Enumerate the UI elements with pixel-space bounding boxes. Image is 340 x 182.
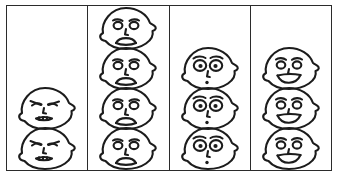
- mouth-frown: [116, 78, 136, 83]
- mouth-upper-lip: [277, 153, 300, 155]
- sad-face-glyph: [96, 124, 160, 173]
- left-eye: [114, 141, 123, 148]
- left-eyebrow: [276, 58, 286, 60]
- face-outline: [101, 88, 157, 129]
- nose: [43, 148, 46, 154]
- left-pupil: [198, 103, 202, 107]
- nose: [207, 111, 210, 117]
- left-eye: [114, 61, 123, 68]
- right-eyebrow: [292, 138, 302, 140]
- left-eyebrow: [276, 98, 286, 100]
- left-eye: [277, 141, 286, 148]
- face-outline: [101, 48, 157, 89]
- happy-face-icon: [251, 88, 331, 128]
- surprised-face-icon: [170, 88, 250, 128]
- right-eyebrow: [130, 99, 140, 100]
- right-eyebrow: [210, 136, 222, 138]
- right-eye: [130, 141, 139, 148]
- face-outline: [101, 8, 157, 49]
- chart-column-angry: [7, 6, 88, 170]
- angry-face-glyph: [15, 124, 79, 173]
- right-eyebrow: [130, 139, 140, 140]
- sad-face-icon: [88, 8, 168, 48]
- mouth-upper-lip: [277, 73, 300, 75]
- angry-face-icon: [7, 88, 87, 128]
- face-outline: [19, 88, 75, 129]
- left-eyebrow: [113, 19, 123, 20]
- mouth-frown: [116, 38, 136, 43]
- right-eyebrow: [292, 58, 302, 60]
- face-outline: [19, 128, 75, 169]
- nose: [125, 29, 128, 35]
- mouth-smile: [277, 115, 300, 123]
- nose: [207, 151, 210, 157]
- left-eyebrow: [193, 96, 205, 98]
- mouth-lower-lip: [116, 163, 136, 165]
- chart-column-sad: [88, 6, 169, 170]
- sad-face-icon: [88, 128, 168, 168]
- sad-face-icon: [88, 48, 168, 88]
- happy-face-icon: [251, 48, 331, 88]
- right-eye: [293, 141, 302, 148]
- left-eyebrow: [193, 56, 205, 58]
- nose: [125, 69, 128, 75]
- right-pupil: [213, 103, 217, 107]
- left-eye: [277, 61, 286, 68]
- left-eye: [114, 101, 123, 108]
- right-eye: [293, 101, 302, 108]
- right-eye: [130, 21, 139, 28]
- happy-face-icon: [251, 128, 331, 168]
- chart-column-surprised: [170, 6, 251, 170]
- right-eye: [130, 61, 139, 68]
- surprised-face-icon: [170, 48, 250, 88]
- left-eye: [114, 21, 123, 28]
- right-eye: [130, 101, 139, 108]
- left-eyebrow: [113, 99, 123, 100]
- mouth-frown: [116, 158, 136, 163]
- left-pupil: [198, 63, 202, 67]
- nose: [125, 109, 128, 115]
- left-eye: [277, 101, 286, 108]
- mouth-upper-lip: [277, 113, 300, 115]
- right-eyebrow: [292, 98, 302, 100]
- happy-face-glyph: [259, 124, 323, 173]
- surprised-face-glyph: [178, 124, 242, 173]
- mouth-smile: [277, 155, 300, 163]
- pictogram-chart: [0, 0, 340, 182]
- nose: [207, 71, 210, 77]
- nose: [43, 108, 46, 114]
- right-eye: [293, 61, 302, 68]
- left-eyebrow: [276, 138, 286, 140]
- sad-face-icon: [88, 88, 168, 128]
- chart-column-happy: [251, 6, 331, 170]
- right-eyebrow: [130, 19, 140, 20]
- mouth-smile: [277, 75, 300, 83]
- face-outline: [101, 128, 157, 169]
- angry-face-icon: [7, 128, 87, 168]
- nose: [125, 149, 128, 155]
- mouth-dot: [205, 160, 208, 163]
- left-pupil: [198, 143, 202, 147]
- left-eyebrow: [113, 59, 123, 60]
- right-eyebrow: [210, 96, 222, 98]
- left-eyebrow: [113, 139, 123, 140]
- surprised-face-icon: [170, 128, 250, 168]
- mouth-frown: [116, 118, 136, 123]
- right-eyebrow: [210, 56, 222, 58]
- chart-frame: [6, 5, 332, 171]
- right-eyebrow: [130, 59, 140, 60]
- left-eyebrow: [193, 136, 205, 138]
- right-pupil: [213, 143, 217, 147]
- right-pupil: [213, 63, 217, 67]
